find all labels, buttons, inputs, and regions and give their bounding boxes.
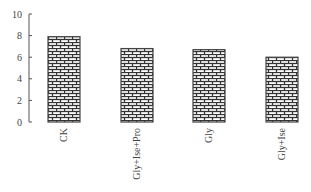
y-axis: 0246810 xyxy=(12,9,32,128)
x-category-label: Gly+Ise+Pro xyxy=(131,128,142,180)
bar-gly-ise xyxy=(266,57,298,122)
bar-chart: 0246810 CKGly+Ise+ProGlyGly+Ise xyxy=(0,0,311,192)
x-category-label: Gly xyxy=(203,128,214,143)
bars xyxy=(48,37,298,122)
x-axis-labels: CKGly+Ise+ProGlyGly+Ise xyxy=(58,127,287,180)
y-tick-label: 0 xyxy=(17,117,22,128)
x-category-label: CK xyxy=(58,127,69,142)
bar-gly xyxy=(193,50,225,122)
y-tick-label: 4 xyxy=(17,73,22,84)
bar-gly-ise-pro xyxy=(121,49,153,122)
y-tick-label: 6 xyxy=(17,52,22,63)
y-tick-label: 10 xyxy=(12,9,22,20)
x-category-label: Gly+Ise xyxy=(276,127,287,160)
bar-ck xyxy=(48,37,80,122)
y-tick-label: 2 xyxy=(17,95,22,106)
y-tick-label: 8 xyxy=(17,30,22,41)
